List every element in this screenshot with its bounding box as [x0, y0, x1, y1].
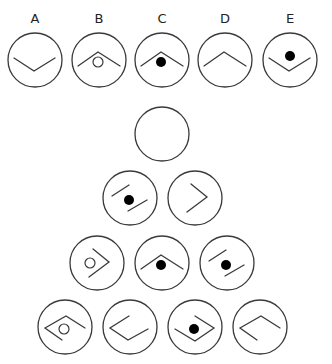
pyramid-cell [168, 171, 222, 225]
open-diamond-icon [240, 316, 280, 340]
filled-dot-icon [285, 51, 295, 61]
circle-frame [135, 107, 189, 161]
circle-frame [198, 33, 252, 87]
pyramid-cell [103, 300, 157, 354]
filled-dot-icon [156, 57, 166, 67]
filled-dot-icon [221, 260, 231, 270]
filled-dot-icon [189, 324, 199, 334]
pyramid-grid [38, 107, 287, 354]
chevron-up-icon [204, 52, 246, 66]
option-b[interactable]: B [72, 11, 126, 87]
answer-options: ABCDE [8, 11, 317, 87]
hollow-dot-icon [93, 57, 103, 67]
filled-dot-icon [156, 260, 166, 270]
circle-frame [70, 236, 124, 290]
pyramid-cell [233, 300, 287, 354]
filled-dot-icon [124, 195, 134, 205]
hollow-dot-icon [59, 324, 69, 334]
option-label: E [286, 11, 294, 26]
diagonal-line-icon [112, 185, 129, 196]
pyramid-cell [168, 300, 222, 354]
option-d[interactable]: D [198, 11, 252, 87]
circle-frame [168, 171, 222, 225]
chevron-right-icon [187, 184, 207, 212]
option-label: B [95, 11, 104, 26]
option-label: C [157, 11, 166, 26]
option-a[interactable]: A [8, 11, 62, 87]
option-label: A [31, 11, 40, 26]
option-e[interactable]: E [263, 11, 317, 87]
option-label: D [220, 11, 230, 26]
chevron-down-icon [14, 58, 55, 71]
hollow-dot-icon [85, 258, 95, 268]
pyramid-cell [38, 300, 92, 354]
puzzle-figure: ABCDE [0, 0, 332, 364]
pyramid-cell [103, 171, 157, 225]
diagonal-line-icon [209, 250, 226, 261]
pyramid-cell [200, 236, 254, 290]
pyramid-cell [135, 236, 189, 290]
open-diamond-icon [110, 316, 148, 340]
pyramid-cell [70, 236, 124, 290]
missing-answer-cell[interactable] [135, 107, 189, 161]
option-c[interactable]: C [135, 11, 189, 87]
